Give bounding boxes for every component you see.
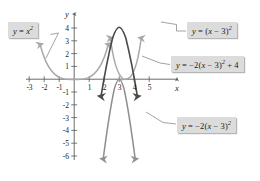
leader-line-neg2-plus-4 [142,56,170,65]
leader-line-x-minus-3-squared [161,22,186,31]
figure-canvas: x y -3 -2 -1 1 2 3 4 5 4 3 2 1 -1 -2 -3 … [0,0,260,181]
x-axis-label: x [175,83,179,93]
callout-y-equals-neg2-x-minus-3-squared: y = −2(x − 3)2 [177,117,236,133]
y-tick-label: 2 [58,50,69,59]
leader-line-neg2 [146,112,176,124]
y-tick-label: 1 [58,62,69,71]
x-tick-label: 4 [128,83,141,92]
x-tick-label: 3 [113,83,126,92]
x-tick-label: 2 [98,83,111,92]
leader-line-x-squared [46,33,59,58]
callout-y-equals-x-minus-3-squared: y = (x − 3)2 [187,22,237,38]
y-tick-label: -3 [54,114,69,123]
curve-y-equals-x-minus-3-squared [110,38,141,80]
callout-y-equals-neg2-x-minus-3-squared-plus-4: y = −2(x − 3)2 + 4 [171,56,244,72]
callout-text-x-squared: y = x2 [13,26,33,36]
x-tick-label: 5 [143,83,156,92]
y-tick-label: 3 [58,37,69,46]
callout-text-neg2-plus-4: y = −2(x − 3)2 + 4 [176,60,239,70]
y-axis-label: y [65,9,69,19]
x-tick-label: -3 [22,83,37,92]
x-tick-label: 1 [83,83,96,92]
x-tick-label: -2 [37,83,52,92]
callout-text-x-minus-3-squared: y = (x − 3)2 [192,26,232,36]
y-tick-label: -1 [54,88,69,97]
y-tick-label: -4 [54,126,69,135]
y-tick-label: 4 [58,24,69,33]
y-tick-label: -5 [54,139,69,148]
y-tick-label: -6 [54,152,69,161]
callout-text-neg2: y = −2(x − 3)2 [182,121,231,131]
y-tick-label: -2 [54,101,69,110]
callout-y-equals-x-squared: y = x2 [8,22,38,38]
